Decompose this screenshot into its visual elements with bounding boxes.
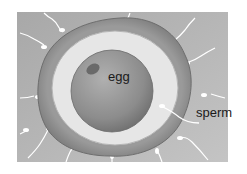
egg-label: egg (108, 70, 130, 83)
fertilization-diagram (0, 0, 247, 174)
sperm-label: sperm (196, 106, 232, 119)
egg-cell (71, 50, 153, 132)
